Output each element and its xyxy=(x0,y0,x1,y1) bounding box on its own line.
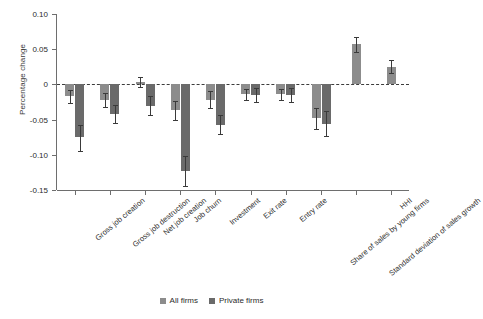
error-bar-cap xyxy=(173,101,178,102)
error-bar-cap xyxy=(244,100,249,101)
error-bar xyxy=(115,105,116,123)
error-bar-cap xyxy=(208,91,213,92)
error-bar xyxy=(185,156,186,187)
error-bar-cap xyxy=(389,73,394,74)
error-bar xyxy=(291,88,292,102)
error-bar-cap xyxy=(148,115,153,116)
error-bar-cap xyxy=(138,87,143,88)
error-bar xyxy=(140,77,141,87)
error-bar-cap xyxy=(289,88,294,89)
y-axis-tick: 0.05 xyxy=(52,49,56,50)
legend-item: All firms xyxy=(160,296,198,305)
error-bar-cap xyxy=(103,93,108,94)
x-axis-tick-label: Share of sales by young firms xyxy=(348,196,430,267)
error-bar-cap xyxy=(314,108,319,109)
y-axis-tick-label: 0 xyxy=(44,80,48,89)
error-bar-cap xyxy=(279,89,284,90)
x-axis-tick xyxy=(145,191,146,195)
error-bar-cap xyxy=(183,156,188,157)
error-bar-cap xyxy=(324,136,329,137)
legend-label: All firms xyxy=(170,296,198,305)
error-bar xyxy=(70,90,71,103)
error-bar-cap xyxy=(254,88,259,89)
chart-legend: All firmsPrivate firms xyxy=(0,296,423,305)
error-bar xyxy=(391,60,392,73)
error-bar-cap xyxy=(113,105,118,106)
x-axis-tick-label: Exit rate xyxy=(261,196,288,221)
legend-label: Private firms xyxy=(219,296,263,305)
error-bar-cap xyxy=(68,90,73,91)
error-bar-cap xyxy=(183,186,188,187)
y-axis-tick: -0.05 xyxy=(52,120,56,121)
x-axis-tick-label: Investment xyxy=(228,196,262,227)
error-bar-cap xyxy=(78,151,83,152)
error-bar xyxy=(80,125,81,151)
error-bar-cap xyxy=(78,125,83,126)
x-axis-tick xyxy=(215,191,216,195)
error-bar xyxy=(281,89,282,100)
error-bar xyxy=(105,93,106,107)
error-bar xyxy=(316,108,317,128)
error-bar-cap xyxy=(218,134,223,135)
x-axis-tick xyxy=(251,191,252,195)
y-axis-tick-label: 0.05 xyxy=(32,45,48,54)
y-axis-tick: 0.10 xyxy=(52,14,56,15)
error-bar-cap xyxy=(324,111,329,112)
error-bar-cap xyxy=(314,129,319,130)
x-axis-tick xyxy=(286,191,287,195)
x-axis-tick xyxy=(356,191,357,195)
y-axis-tick-label: -0.05 xyxy=(30,115,48,124)
error-bar xyxy=(150,96,151,114)
error-bar-cap xyxy=(148,96,153,97)
legend-swatch xyxy=(160,298,166,304)
x-axis-tick xyxy=(321,191,322,195)
x-axis-tick xyxy=(391,191,392,195)
y-axis-tick-label: 0.10 xyxy=(32,10,48,19)
error-bar-cap xyxy=(279,100,284,101)
y-axis-title: Percentage change xyxy=(18,20,27,140)
error-bar xyxy=(220,115,221,135)
error-bar-cap xyxy=(208,108,213,109)
error-bar-cap xyxy=(218,115,223,116)
error-bar-cap xyxy=(354,52,359,53)
y-axis-tick: 0 xyxy=(52,84,56,85)
x-axis xyxy=(57,190,409,191)
x-axis-tick xyxy=(110,191,111,195)
error-bar-cap xyxy=(138,77,143,78)
x-axis-tick xyxy=(180,191,181,195)
plot-area xyxy=(57,14,409,190)
y-axis-tick-label: -0.10 xyxy=(30,150,48,159)
legend-item: Private firms xyxy=(209,296,263,305)
error-bar-cap xyxy=(68,103,73,104)
y-axis-tick: -0.10 xyxy=(52,155,56,156)
y-axis-tick: -0.15 xyxy=(52,190,56,191)
x-axis-tick-label: Entry rate xyxy=(297,196,328,224)
error-bar-cap xyxy=(254,102,259,103)
error-bar-cap xyxy=(113,123,118,124)
error-bar-cap xyxy=(354,37,359,38)
error-bar xyxy=(326,111,327,136)
error-bar xyxy=(210,91,211,108)
error-bar-cap xyxy=(389,60,394,61)
error-bar-cap xyxy=(173,120,178,121)
legend-swatch xyxy=(209,298,215,304)
error-bar-cap xyxy=(103,107,108,108)
x-axis-tick xyxy=(75,191,76,195)
error-bar xyxy=(256,88,257,102)
error-bar xyxy=(356,37,357,52)
error-bar-cap xyxy=(289,102,294,103)
y-axis-tick-label: -0.15 xyxy=(30,186,48,195)
error-bar xyxy=(175,101,176,120)
error-bar-cap xyxy=(244,89,249,90)
error-bar xyxy=(246,89,247,100)
